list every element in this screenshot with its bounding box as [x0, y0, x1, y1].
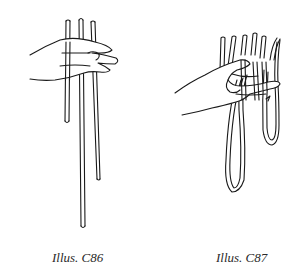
- illustration-canvas: [0, 0, 293, 278]
- caption-c87: Illus. C87: [216, 250, 267, 266]
- illustration-c87: [175, 33, 280, 192]
- illustration-c86: [30, 19, 118, 228]
- caption-c86: Illus. C86: [52, 250, 103, 266]
- hand-c86: [30, 38, 118, 80]
- short-loop: [263, 40, 280, 145]
- hand-c87: [175, 60, 280, 115]
